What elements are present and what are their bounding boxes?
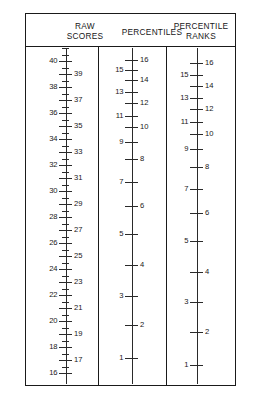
tick-label-percentiles-12: 12 [140, 99, 160, 107]
chart-frame: RAW SCORES PERCENTILES PERCENTILE RANKS … [25, 13, 236, 386]
tick-minor-raw-scores [62, 68, 69, 69]
tick-minor-raw-scores [62, 107, 69, 108]
tick-percentiles-12 [125, 103, 138, 104]
tick-percentiles-5 [125, 234, 138, 235]
tick-percentiles-11 [125, 116, 138, 117]
tick-label-raw-scores-39: 39 [74, 70, 94, 78]
tick-raw-scores-30 [59, 191, 72, 192]
tick-minor-raw-scores [62, 237, 69, 238]
tick-minor-raw-scores [62, 302, 69, 303]
tick-label-percentile-ranks-8: 8 [205, 163, 225, 171]
tick-raw-scores-25 [59, 256, 72, 257]
tick-minor-raw-scores [62, 315, 69, 316]
tick-percentile-ranks-2 [190, 332, 203, 333]
tick-raw-scores-16 [59, 373, 72, 374]
percentile-ranks-header-line1: PERCENTILE [166, 21, 236, 31]
tick-minor-raw-scores [62, 198, 69, 199]
tick-raw-scores-23 [59, 282, 72, 283]
tick-label-raw-scores-35: 35 [74, 122, 94, 130]
tick-minor-raw-scores [62, 146, 69, 147]
tick-minor-raw-scores [62, 211, 69, 212]
tick-minor-raw-scores [62, 55, 69, 56]
tick-label-percentile-ranks-2: 2 [205, 328, 225, 336]
tick-raw-scores-x1 [62, 48, 69, 49]
tick-minor-raw-scores [62, 328, 69, 329]
tick-percentile-ranks-15 [190, 75, 203, 76]
tick-label-raw-scores-29: 29 [74, 200, 94, 208]
tick-raw-scores-24 [59, 269, 72, 270]
tick-label-raw-scores-37: 37 [74, 96, 94, 104]
tick-label-percentile-ranks-5: 5 [169, 237, 189, 245]
tick-percentile-ranks-8 [190, 167, 203, 168]
tick-label-raw-scores-25: 25 [74, 252, 94, 260]
tick-percentile-ranks-9 [190, 149, 203, 150]
tick-minor-raw-scores [62, 185, 69, 186]
tick-percentile-ranks-5 [190, 241, 203, 242]
column-divider-2 [166, 47, 167, 386]
tick-label-raw-scores-27: 27 [74, 226, 94, 234]
tick-label-percentile-ranks-9: 9 [169, 145, 189, 153]
tick-percentiles-13 [125, 92, 138, 93]
tick-label-raw-scores-23: 23 [74, 278, 94, 286]
tick-raw-scores-20 [59, 321, 72, 322]
tick-raw-scores-36 [59, 113, 72, 114]
tick-percentile-ranks-12 [190, 109, 203, 110]
tick-label-percentiles-5: 5 [104, 230, 124, 238]
tick-raw-scores-19 [59, 334, 72, 335]
tick-raw-scores-34 [59, 139, 72, 140]
tick-minor-raw-scores [62, 354, 69, 355]
tick-raw-scores-38 [59, 87, 72, 88]
tick-percentiles-6 [125, 206, 138, 207]
tick-label-raw-scores-16: 16 [38, 369, 58, 377]
tick-percentile-ranks-10 [190, 134, 203, 135]
tick-minor-raw-scores [62, 81, 69, 82]
tick-minor-raw-scores [62, 159, 69, 160]
tick-percentile-ranks-7 [190, 189, 203, 190]
axis-line-percentiles [132, 48, 133, 384]
tick-label-percentile-ranks-6: 6 [205, 209, 225, 217]
column-header-band: RAW SCORES PERCENTILES PERCENTILE RANKS [26, 14, 235, 47]
tick-label-percentiles-7: 7 [104, 178, 124, 186]
tick-minor-raw-scores [62, 120, 69, 121]
tick-label-percentile-ranks-4: 4 [205, 268, 225, 276]
tick-raw-scores-40 [59, 61, 72, 62]
tick-minor-raw-scores [62, 250, 69, 251]
tick-percentile-ranks-1 [190, 365, 203, 366]
tick-raw-scores-29 [59, 204, 72, 205]
tick-label-percentiles-15: 15 [104, 66, 124, 74]
tick-percentile-ranks-16 [190, 63, 203, 64]
tick-minor-raw-scores [62, 94, 69, 95]
tick-label-percentiles-13: 13 [104, 88, 124, 96]
tick-percentile-ranks-4 [190, 272, 203, 273]
column-header-percentile-ranks: PERCENTILE RANKS [166, 21, 236, 42]
tick-raw-scores-31 [59, 178, 72, 179]
tick-label-percentile-ranks-13: 13 [169, 94, 189, 102]
percentile-ranks-header-line2: RANKS [166, 31, 236, 41]
tick-label-raw-scores-24: 24 [38, 265, 58, 273]
tick-percentile-ranks-13 [190, 98, 203, 99]
tick-raw-scores-39 [59, 74, 72, 75]
tick-label-raw-scores-21: 21 [74, 304, 94, 312]
tick-percentiles-14 [125, 80, 138, 81]
tick-label-percentiles-11: 11 [104, 112, 124, 120]
tick-percentile-ranks-11 [190, 122, 203, 123]
tick-label-percentiles-9: 9 [104, 138, 124, 146]
tick-label-raw-scores-17: 17 [74, 356, 94, 364]
tick-percentiles-10 [125, 127, 138, 128]
tick-percentiles-9 [125, 142, 138, 143]
tick-raw-scores-22 [59, 295, 72, 296]
tick-percentile-ranks-14 [190, 86, 203, 87]
tick-percentile-ranks-6 [190, 213, 203, 214]
tick-minor-raw-scores [62, 276, 69, 277]
tick-label-percentiles-10: 10 [140, 123, 160, 131]
tick-label-raw-scores-31: 31 [74, 174, 94, 182]
tick-raw-scores-27 [59, 230, 72, 231]
tick-minor-raw-scores [62, 263, 69, 264]
column-divider-1 [98, 47, 99, 386]
tick-label-raw-scores-28: 28 [38, 213, 58, 221]
tick-label-percentiles-6: 6 [140, 202, 160, 210]
tick-percentiles-4 [125, 265, 138, 266]
tick-label-raw-scores-22: 22 [38, 291, 58, 299]
tick-label-percentile-ranks-16: 16 [205, 59, 225, 67]
tick-label-percentiles-3: 3 [104, 292, 124, 300]
